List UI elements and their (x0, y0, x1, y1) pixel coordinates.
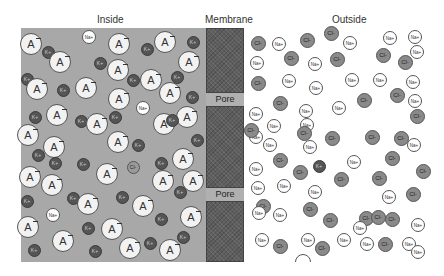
sodium-ion-label: Na+ (275, 42, 283, 47)
chloride-ion-label: Cl- (303, 37, 311, 43)
sodium-ion: Na+ (308, 185, 322, 199)
sodium-ion: Na+ (345, 73, 359, 87)
sodium-ion: Na+ (82, 30, 96, 44)
potassium-ion: K+ (155, 157, 168, 170)
anion-particle: A (75, 77, 97, 99)
anion-particle-label: A (84, 198, 91, 210)
chloride-ion-label: Cl- (276, 157, 284, 163)
anion-particle-label: A (126, 242, 133, 254)
anion-particle: A (17, 216, 39, 238)
membrane-label: Membrane (205, 14, 253, 25)
anion-particle-label: A (82, 82, 89, 94)
chloride-ion-label: Cl- (381, 241, 389, 247)
chloride-ion: Cl- (273, 239, 288, 254)
chloride-ion-label: Cl- (419, 168, 427, 174)
anion-particle-label: A (147, 74, 154, 86)
chloride-ion-label: Cl- (130, 164, 136, 170)
anion-particle-label: A (189, 175, 196, 187)
chloride-ion: Cl- (410, 109, 425, 124)
anion-particle-label: A (27, 38, 34, 50)
sodium-ion: Na+ (249, 107, 263, 121)
potassium-ion-label: K+ (180, 234, 186, 240)
sodium-ion-label: Na+ (258, 238, 266, 243)
sodium-ion: Na+ (308, 57, 322, 71)
chloride-ion-label: Cl- (374, 214, 382, 220)
anion-particle-label: A (185, 56, 192, 68)
sodium-ion-label: Na+ (335, 106, 343, 111)
anion-particle-label: A (183, 111, 190, 123)
sodium-ion-label: Na+ (356, 226, 364, 231)
anion-particle-label: A (59, 235, 66, 247)
anion-particle-label: A (26, 171, 33, 183)
sodium-ion: Na+ (411, 218, 425, 232)
chloride-ion: Cl- (127, 161, 140, 174)
sodium-ion: Na+ (272, 37, 286, 51)
membrane-block-bottom (206, 201, 244, 262)
chloride-ion: Cl- (357, 93, 372, 108)
anion-particle-label: A (161, 36, 168, 48)
potassium-ion: K+ (166, 114, 179, 127)
sodium-ion-label: Na+ (411, 35, 419, 40)
potassium-ion-label: K+ (85, 225, 91, 231)
potassium-ion-label: K+ (92, 248, 98, 254)
potassium-ion-label: K+ (135, 142, 141, 148)
sodium-ion: Na+ (407, 138, 421, 152)
chloride-ion-label: Cl- (327, 30, 335, 36)
sodium-ion-label: Na+ (302, 109, 310, 114)
potassium-ion-label: K+ (147, 240, 153, 246)
sodium-ion-label: Na+ (306, 145, 314, 150)
potassium-ion: K+ (187, 36, 200, 49)
sodium-ion-label: Na+ (385, 195, 393, 200)
potassium-ion: K+ (21, 195, 34, 208)
potassium-ion: K+ (127, 74, 140, 87)
sodium-ion: Na+ (406, 75, 420, 89)
sodium-ion: Na+ (332, 101, 346, 115)
anion-particle-label: A (179, 153, 186, 165)
anion-particle: A (77, 193, 99, 215)
chloride-ion-label: Cl- (401, 59, 409, 65)
sodium-ion-label: Na+ (276, 213, 284, 218)
anion-particle-label: A (187, 211, 194, 223)
sodium-ion: Na+ (250, 56, 264, 70)
chloride-ion: Cl- (273, 96, 288, 111)
potassium-ion-label: K+ (169, 117, 175, 123)
chloride-ion: Cl- (372, 171, 387, 186)
chloride-ion-label: Cl- (393, 92, 401, 98)
anion-particle: A (108, 33, 130, 55)
potassium-ion-label: K+ (144, 46, 150, 52)
potassium-ion-label: K+ (174, 74, 180, 80)
potassium-ion-label: K+ (190, 39, 196, 45)
sodium-ion-label: Na+ (253, 61, 261, 66)
sodium-ion: Na+ (347, 155, 361, 169)
potassium-ion-label: K+ (97, 60, 103, 66)
chloride-ion-label: Cl- (318, 245, 326, 251)
chloride-ion-label: Cl- (413, 113, 421, 119)
anion-particle-label: A (115, 93, 122, 105)
chloride-ion: Cl- (297, 126, 312, 141)
anion-particle-label: A (33, 83, 40, 95)
chloride-ion: Cl- (300, 33, 315, 48)
potassium-ion: K+ (57, 84, 70, 97)
anion-particle: A (180, 206, 202, 228)
outside-label: Outside (332, 14, 366, 25)
partial-ion (295, 254, 311, 270)
sodium-ion-label: Na+ (410, 143, 418, 148)
potassium-ion-label: K+ (130, 77, 136, 83)
potassium-ion-label: K+ (177, 189, 183, 195)
chloride-ion: Cl- (315, 241, 330, 256)
sodium-ion: Na+ (249, 162, 263, 176)
chloride-ion-label: Cl- (360, 97, 368, 103)
anion-particle-label: A (56, 56, 63, 68)
chloride-ion: Cl- (334, 172, 349, 187)
chloride-ion: Cl- (365, 130, 380, 145)
sodium-ion-label: Na+ (311, 190, 319, 195)
chloride-ion: Cl- (330, 52, 345, 67)
potassium-ion-label: K+ (45, 49, 51, 55)
sodium-ion: Na+ (273, 208, 287, 222)
chloride-ion: Cl- (376, 48, 391, 63)
potassium-ion: K+ (191, 134, 204, 147)
sodium-ion: Na+ (263, 138, 277, 152)
potassium-ion-label: K+ (31, 247, 37, 253)
sodium-ion-label: Na+ (254, 186, 262, 191)
chloride-ion: Cl- (244, 123, 259, 138)
